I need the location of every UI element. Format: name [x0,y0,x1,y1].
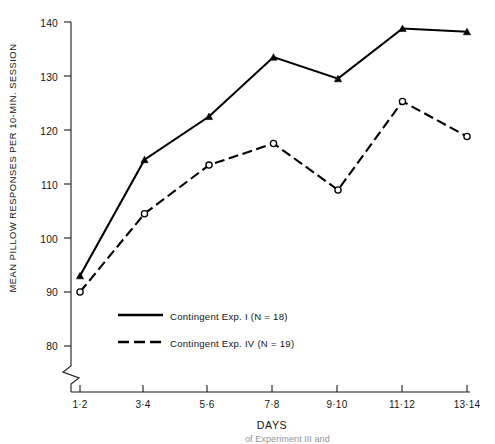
data-point-marker [399,98,405,104]
y-tick-marks [64,22,71,346]
data-point-marker [206,162,212,168]
y-axis-break-icon [63,348,79,392]
x-tick-marks [80,385,467,392]
data-point-marker [335,187,341,193]
data-point-marker [270,140,276,146]
data-point-marker [141,211,147,217]
data-point-marker [464,133,470,139]
chart-plot-area [0,0,495,444]
chart-figure: MEAN PILLOW RESPONSES PER 10-MIN. SESSIO… [0,0,495,444]
data-point-marker [77,289,83,295]
series-line-contingent-exp-4 [77,98,470,295]
series-line-contingent-exp-1 [76,25,470,279]
